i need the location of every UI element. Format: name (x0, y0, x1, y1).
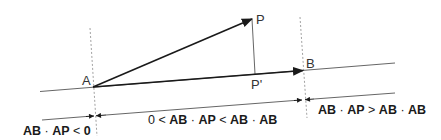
point-label-a: A (82, 74, 91, 87)
dot-operator: · (252, 113, 256, 127)
vec-ap: AP (198, 113, 215, 127)
dimension-line-right (314, 93, 395, 99)
dimension-line-left (42, 117, 86, 121)
dot-operator: · (400, 103, 404, 117)
dim-arrow-b-right (305, 99, 314, 100)
condition-right: AB · AP > AB · AB (318, 104, 426, 117)
relation: > (368, 103, 375, 117)
relation: < (73, 124, 80, 138)
vec-ab: AB (408, 103, 426, 117)
condition-middle: 0 < AB · AP < AB · AB (148, 114, 277, 127)
dot-operator: · (340, 103, 344, 117)
relation-2: < (219, 113, 226, 127)
relation-1: < (158, 113, 165, 127)
lhs-zero: 0 (148, 113, 155, 127)
vec-ab: AB (318, 103, 336, 117)
vec-ap: AP (347, 103, 364, 117)
point-label-p-prime: P' (251, 78, 262, 91)
vec-ab: AB (169, 113, 187, 127)
vec-ab: AB (23, 124, 41, 138)
perpendicular-line-a (90, 28, 97, 136)
dim-arrow-a-right (96, 115, 106, 116)
point-label-p: P (256, 13, 265, 26)
dot-operator: · (45, 124, 49, 138)
vec-ab: AB (259, 113, 277, 127)
dim-arrow-b-left (294, 100, 302, 101)
projection-line-pp (252, 19, 255, 74)
dim-arrow-a-left (86, 116, 94, 117)
point-label-b: B (306, 57, 315, 70)
vec-ab: AB (379, 103, 397, 117)
rhs-zero: 0 (84, 124, 91, 138)
vec-ab: AB (230, 113, 248, 127)
vec-ap: AP (52, 124, 69, 138)
condition-left: AB · AP < 0 (23, 125, 91, 138)
dot-operator: · (191, 113, 195, 127)
